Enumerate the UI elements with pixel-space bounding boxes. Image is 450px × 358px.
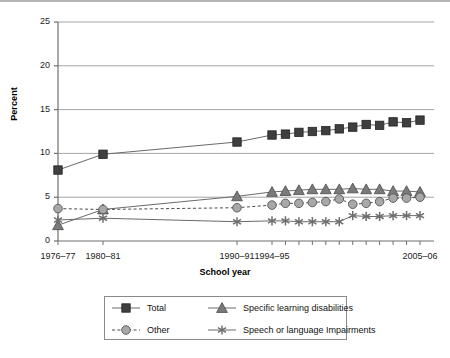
triangle-icon — [207, 302, 237, 314]
gridlines — [58, 22, 434, 197]
legend: TotalSpecific learning disabilitiesOther… — [104, 296, 347, 340]
legend-label: Speech or language Impairments — [241, 325, 376, 335]
axis-lines — [54, 22, 434, 241]
legend-item-square[interactable]: Total — [105, 302, 201, 314]
square-icon — [111, 302, 141, 314]
x-tick-label: 1994–95 — [242, 251, 302, 261]
chart-container: Percent 0510152025 1976–771980–811990–91… — [0, 0, 450, 358]
x-tick-label: 2005–06 — [390, 251, 450, 261]
series-1 — [54, 116, 424, 174]
circle-icon — [111, 324, 141, 336]
legend-label: Specific learning disabilities — [241, 303, 353, 313]
x-tick-label: 1980–81 — [73, 251, 133, 261]
legend-label: Other — [145, 325, 170, 335]
x-axis-title: School year — [0, 267, 450, 277]
legend-label: Total — [145, 303, 166, 313]
series-4 — [54, 211, 424, 226]
data-series-layer — [53, 116, 426, 230]
legend-item-triangle[interactable]: Specific learning disabilities — [201, 302, 348, 314]
legend-item-star[interactable]: Speech or language Impairments — [201, 324, 348, 336]
x-axis-tick-marks — [58, 241, 420, 245]
legend-item-circle[interactable]: Other — [105, 324, 201, 336]
star-icon — [207, 324, 237, 336]
